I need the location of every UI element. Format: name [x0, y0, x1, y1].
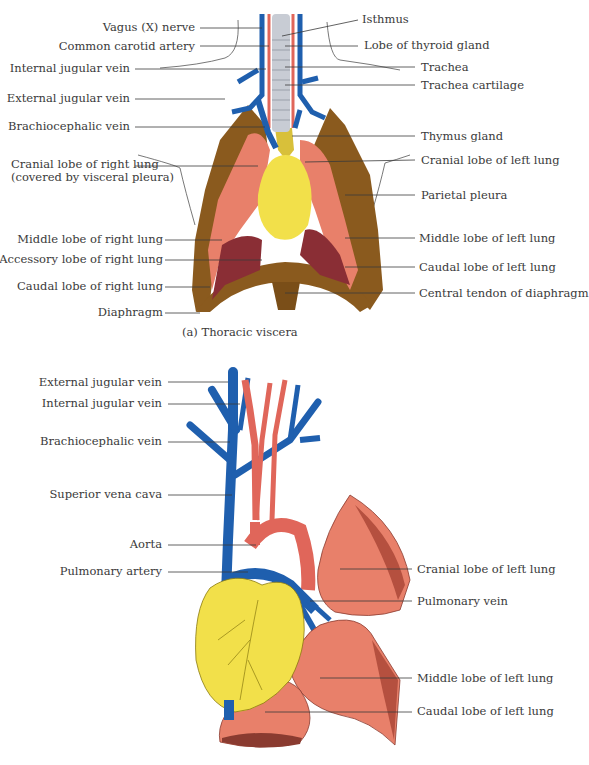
label-internal-jugular-vein: Internal jugular vein — [10, 62, 130, 75]
label-trachea-cartilage: Trachea cartilage — [421, 79, 524, 92]
label-parietal-pleura: Parietal pleura — [421, 189, 507, 202]
label-diaphragm: Diaphragm — [98, 306, 163, 319]
label-cranial-lobe-right-lung: Cranial lobe of right lung (covered by v… — [11, 158, 174, 184]
panel-b-drawing — [190, 372, 410, 748]
label-middle-lobe-left-lung: Middle lobe of left lung — [419, 232, 555, 245]
caption-panel-a: (a) Thoracic viscera — [182, 325, 298, 339]
label-central-tendon-diaphragm: Central tendon of diaphragm — [419, 287, 589, 300]
label-middle-lobe-right-lung: Middle lobe of right lung — [17, 233, 163, 246]
label-b-superior-vena-cava: Superior vena cava — [49, 488, 162, 501]
label-b-middle-lobe-left-lung: Middle lobe of left lung — [417, 672, 553, 685]
label-accessory-lobe-right-lung: Accessory lobe of right lung — [0, 253, 163, 266]
label-cranial-lobe-right-lung-line2: (covered by visceral pleura) — [11, 171, 174, 184]
label-cranial-lobe-left-lung: Cranial lobe of left lung — [421, 154, 560, 167]
label-vagus-nerve: Vagus (X) nerve — [103, 21, 195, 34]
label-external-jugular-vein: External jugular vein — [7, 92, 130, 105]
label-b-pulmonary-vein: Pulmonary vein — [417, 595, 508, 608]
label-trachea: Trachea — [421, 61, 469, 74]
label-b-brachiocephalic-vein: Brachiocephalic vein — [40, 435, 162, 448]
label-b-aorta: Aorta — [130, 538, 162, 551]
label-b-external-jugular-vein: External jugular vein — [39, 376, 162, 389]
label-brachiocephalic-vein: Brachiocephalic vein — [8, 120, 130, 133]
label-isthmus: Isthmus — [362, 13, 409, 26]
label-b-pulmonary-artery: Pulmonary artery — [60, 565, 162, 578]
label-thymus-gland: Thymus gland — [421, 130, 503, 143]
label-caudal-lobe-left-lung: Caudal lobe of left lung — [419, 261, 556, 274]
label-b-cranial-lobe-left-lung: Cranial lobe of left lung — [417, 563, 556, 576]
label-lobe-of-thyroid-gland: Lobe of thyroid gland — [364, 39, 490, 52]
label-common-carotid-artery: Common carotid artery — [59, 40, 195, 53]
label-caudal-lobe-right-lung: Caudal lobe of right lung — [17, 280, 163, 293]
label-b-caudal-lobe-left-lung: Caudal lobe of left lung — [417, 705, 554, 718]
label-b-internal-jugular-vein: Internal jugular vein — [42, 397, 162, 410]
